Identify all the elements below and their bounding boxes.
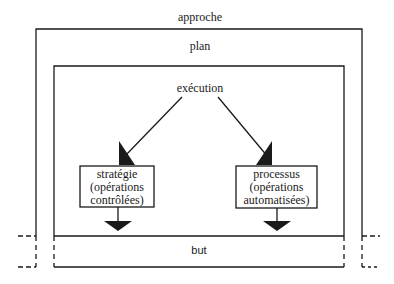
strategy-down-arrow-icon xyxy=(104,221,132,231)
process-line3: automatisées) xyxy=(236,194,317,207)
process-down-arrow-icon xyxy=(263,221,291,231)
strategy-line3: contrôlées) xyxy=(80,194,154,207)
arrow-to-process xyxy=(218,97,268,157)
process-box-text: processus (opérations automatisées) xyxy=(236,168,317,207)
strategy-box-text: stratégie (opérations contrôlées) xyxy=(80,168,154,207)
approche-label: approche xyxy=(150,11,250,24)
goal-label: but xyxy=(174,244,224,257)
execution-label: exécution xyxy=(150,82,250,95)
plan-label: plan xyxy=(150,40,250,53)
strategy-arrowhead-icon xyxy=(119,141,135,165)
arrow-to-strategy xyxy=(124,97,182,157)
